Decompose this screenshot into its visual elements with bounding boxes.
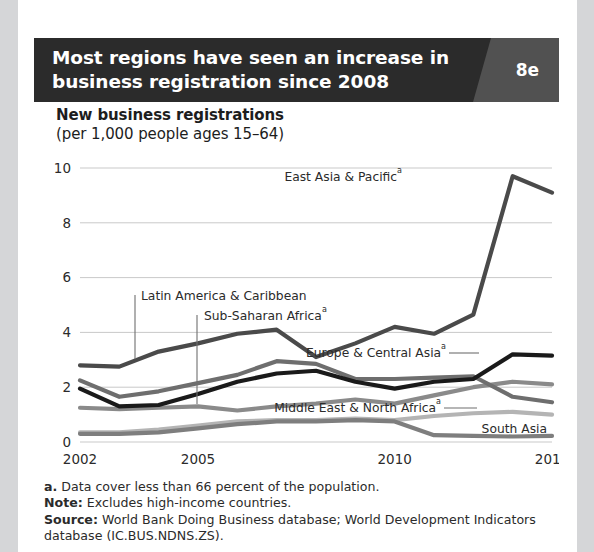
note-line: Note: Excludes high-income countries. [44,495,564,511]
series-line [80,361,552,402]
footnote-a: a. Data cover less than 66 percent of th… [44,479,564,495]
y-tick-label: 10 [54,160,71,176]
source-line: Source: World Bank Doing Business databa… [44,512,564,545]
series-labels: East Asia & PacificaLatin America & Cari… [141,166,547,437]
x-tick-label: 2010 [377,451,411,467]
note-label: Note: [44,495,83,510]
figure-header: Most regions have seen an increase in bu… [34,38,559,102]
figure-number-label: 8e [516,60,539,80]
y-tick-label: 0 [62,434,71,450]
y-tick-label: 8 [62,215,71,231]
x-tick-label: 2002 [63,451,97,467]
series-line [80,176,552,366]
figure-notes: a. Data cover less than 66 percent of th… [44,479,564,545]
source-text: World Bank Doing Business database; Worl… [44,512,536,543]
chart-block: New business registrations (per 1,000 pe… [34,106,559,476]
line-chart-svg: 0246810 2002200520102014 East Asia & Pac… [34,154,559,476]
series-label-europe-central-asia: Europe & Central Asiaa [306,342,446,361]
footnote-text: Data cover less than 66 percent of the p… [61,479,379,494]
figure-number-badge: 8e [473,38,559,102]
x-tick-label: 2005 [181,451,215,467]
y-tick-label: 4 [62,324,71,340]
note-text: Excludes high-income countries. [87,495,292,510]
series-label-latin-america: Latin America & Caribbean [141,289,307,303]
series-label-south-asia: South Asia [482,422,547,436]
series-label-sub-saharan-africa: Sub-Saharan Africaa [204,305,327,324]
chart-subtitle: (per 1,000 people ages 15–64) [56,125,284,143]
y-tick-label: 6 [62,269,71,285]
x-tick-label: 2014 [535,451,559,467]
y-tick-label: 2 [62,379,71,395]
footnote-marker: a. [44,479,57,494]
y-axis-tick-labels: 0246810 [54,160,71,450]
plot-area: 0246810 2002200520102014 East Asia & Pac… [34,154,559,476]
chart-title: New business registrations [56,106,284,124]
x-axis-tick-labels: 2002200520102014 [63,451,559,467]
figure-card: Most regions have seen an increase in bu… [18,0,577,552]
figure-header-title: Most regions have seen an increase in bu… [52,46,452,94]
series-lines [80,176,552,436]
source-label: Source: [44,512,98,527]
